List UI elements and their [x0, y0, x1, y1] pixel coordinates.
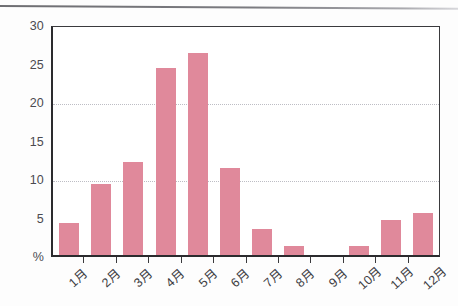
x-axis-labels: 1月2月3月4月5月6月7月8月9月10月11月12月: [51, 264, 440, 306]
x-axis-tick-mark: [148, 257, 149, 263]
y-axis-labels: %51015202530: [0, 0, 51, 306]
bar-slot[interactable]: [117, 27, 149, 255]
bar-slot[interactable]: [214, 27, 246, 255]
x-axis-tick-label: 11月: [385, 261, 417, 293]
bar-series: [53, 27, 439, 255]
y-axis-tick-label: 30: [30, 19, 44, 33]
x-axis-tick-label: 9月: [323, 263, 351, 291]
bar-slot[interactable]: [407, 27, 439, 255]
bar-slot[interactable]: [278, 27, 310, 255]
bar[interactable]: [252, 229, 272, 255]
page-rule-divider: [0, 5, 458, 10]
x-axis-tick-label: 1月: [64, 263, 92, 291]
bar-slot[interactable]: [53, 27, 85, 255]
bar-slot[interactable]: [150, 27, 182, 255]
x-axis-tick-label: 2月: [96, 263, 124, 291]
x-axis-tick-label: 6月: [226, 263, 254, 291]
bar-slot[interactable]: [343, 27, 375, 255]
bar[interactable]: [156, 68, 176, 255]
bar-slot[interactable]: [246, 27, 278, 255]
x-axis-tick-label: 5月: [193, 263, 221, 291]
y-axis-tick-label: 5: [37, 212, 44, 226]
x-axis-tick-label: 7月: [258, 263, 286, 291]
x-axis-tick-mark: [116, 257, 117, 263]
bar[interactable]: [349, 246, 369, 255]
x-axis-tick-mark: [246, 257, 247, 263]
y-axis-tick-label: 10: [30, 173, 44, 187]
bar-slot[interactable]: [182, 27, 214, 255]
chart-figure: %51015202530 1月2月3月4月5月6月7月8月9月10月11月12月: [0, 0, 458, 306]
bar[interactable]: [220, 168, 240, 255]
x-axis-tick-mark: [213, 257, 214, 263]
x-axis-tick-mark: [408, 257, 409, 263]
x-axis-tick-mark: [375, 257, 376, 263]
x-axis-tick-label: 10月: [353, 261, 386, 294]
bar-slot[interactable]: [85, 27, 117, 255]
x-axis-tick-label: 3月: [128, 263, 156, 291]
x-axis-tick-mark: [83, 257, 84, 263]
bar[interactable]: [188, 53, 208, 255]
x-axis-tick-mark: [310, 257, 311, 263]
x-axis-tick-mark: [278, 257, 279, 263]
x-axis-tick-mark: [343, 257, 344, 263]
bar[interactable]: [123, 162, 143, 255]
bar-slot[interactable]: [310, 27, 342, 255]
x-axis-tick-label: 8月: [291, 263, 319, 291]
bar[interactable]: [91, 184, 111, 255]
y-axis-tick-label: 15: [30, 135, 44, 149]
bar[interactable]: [284, 246, 304, 255]
x-axis-ticks: [51, 257, 440, 264]
y-axis-tick-label: 25: [30, 58, 44, 72]
bar[interactable]: [413, 213, 433, 255]
x-axis-tick-label: 12月: [418, 261, 451, 294]
x-axis-tick-label: 4月: [161, 263, 189, 291]
bar[interactable]: [381, 220, 401, 255]
bar-slot[interactable]: [375, 27, 407, 255]
y-axis-tick-label: %: [33, 250, 44, 264]
x-axis-tick-mark: [181, 257, 182, 263]
y-axis-tick-label: 20: [30, 96, 44, 110]
plot-area: [51, 26, 440, 257]
bar[interactable]: [59, 223, 79, 255]
